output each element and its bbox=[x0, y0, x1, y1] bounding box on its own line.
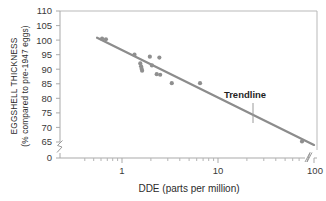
y-tick-label: 95 bbox=[41, 49, 52, 60]
y-axis-title-line1: EGGSHELL THICKNESS bbox=[9, 37, 19, 134]
data-point bbox=[148, 55, 152, 59]
x-tick-label: 10 bbox=[213, 165, 224, 176]
y-axis-title-line2: (% compared to pre-1947 eggs) bbox=[20, 25, 30, 147]
y-tick-label: 110 bbox=[37, 5, 52, 16]
data-point bbox=[140, 69, 144, 73]
data-point bbox=[157, 55, 161, 59]
data-point bbox=[198, 81, 202, 85]
trendline bbox=[97, 38, 314, 145]
y-tick-label: 85 bbox=[41, 78, 52, 89]
data-point bbox=[170, 81, 174, 85]
data-point bbox=[100, 37, 104, 41]
data-point bbox=[158, 73, 162, 77]
x-axis-break-icon bbox=[305, 153, 312, 163]
data-point bbox=[104, 37, 108, 41]
x-tick-label: 100 bbox=[307, 165, 323, 176]
plot-frame bbox=[60, 11, 317, 150]
y-tick-label: 75 bbox=[41, 107, 52, 118]
x-axis-title: DDE (parts per million) bbox=[138, 183, 239, 194]
y-tick-label: 105 bbox=[36, 20, 52, 31]
trendline-label: Trendline bbox=[224, 89, 266, 100]
data-point bbox=[132, 53, 136, 57]
y-tick-label: 65 bbox=[41, 136, 52, 147]
y-axis: 110 105 100 95 90 85 80 75 70 65 0 bbox=[36, 5, 62, 163]
eggshell-thickness-chart: 110 105 100 95 90 85 80 75 70 65 0 EGGSH… bbox=[0, 0, 326, 201]
y-tick-label: 100 bbox=[36, 35, 52, 46]
y-tick-label: 90 bbox=[41, 64, 52, 75]
chart-canvas: 110 105 100 95 90 85 80 75 70 65 0 EGGSH… bbox=[0, 0, 326, 201]
x-axis: 1 10 100 bbox=[60, 153, 323, 177]
y-tick-label: 70 bbox=[41, 122, 52, 133]
y-tick-label: 0 bbox=[47, 152, 52, 163]
y-tick-label: 80 bbox=[41, 93, 52, 104]
y-axis-title: EGGSHELL THICKNESS (% compared to pre-19… bbox=[9, 25, 30, 147]
x-tick-label: 1 bbox=[119, 165, 124, 176]
data-point bbox=[300, 139, 304, 143]
data-point bbox=[150, 63, 154, 67]
